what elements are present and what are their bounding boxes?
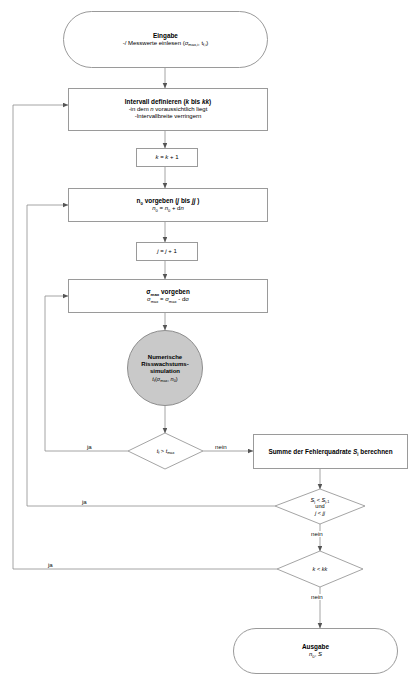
n0-line-2: n0 = n0 + dn: [152, 205, 184, 212]
node-k-increment: k = k + 1: [136, 148, 198, 167]
eingabe-heading: Eingabe: [153, 32, 178, 40]
node-decision-k: k < kk: [277, 551, 363, 587]
intervall-line-3: -Intervallbreite verringern: [135, 113, 202, 120]
simulation-line-2: Risswachstums-: [141, 361, 188, 368]
edge-label-nein-tf: nein: [214, 444, 228, 450]
node-decision-tf: tf > tmax: [128, 433, 203, 469]
edge-label-ja-sj: ja: [81, 499, 88, 505]
decision-sj-line-3: j < jj: [311, 510, 330, 516]
node-summe-fehlerquadrate: Summe der Fehlerquadrate Sj berechnen: [253, 434, 408, 469]
ausgabe-values: n0, S: [309, 651, 322, 658]
wire-ja-tf-loop: [45, 296, 128, 451]
eingabe-line-1: -/ Messwerte einlesen (σmax,i, tf,i): [123, 40, 209, 47]
node-numerische-simulation: Numerische Risswachstums- simulation tf(…: [127, 330, 203, 406]
k-increment-text: k = k + 1: [155, 154, 178, 161]
simulation-line-1: Numerische: [148, 354, 182, 361]
summe-text: Summe der Fehlerquadrate Sj berechnen: [268, 448, 392, 456]
decision-tf-label: tf > tmax: [157, 448, 175, 454]
node-j-increment: j = j + 1: [136, 242, 198, 261]
edge-label-nein-sj: nein: [310, 531, 324, 537]
sigma-heading: σmax vorgeben: [146, 288, 190, 296]
decision-k-label: k < kk: [313, 566, 328, 572]
n0-heading: n0 vorgeben (j bis jj ): [137, 197, 200, 205]
node-sigma-vorgeben: σmax vorgeben σmax = σmax - dσ: [68, 279, 268, 313]
node-n0-vorgeben: n0 vorgeben (j bis jj ) n0 = n0 + dn: [68, 188, 268, 222]
node-decision-sj: Sj < Sj-1 und j < jj: [275, 489, 365, 524]
j-increment-text: j = j + 1: [157, 248, 177, 255]
node-intervall-definieren: Intervall definieren (k bis kk) -in dem …: [68, 88, 268, 131]
simulation-line-3: simulation: [150, 368, 180, 375]
simulation-line-4: tf(σmax, n0): [152, 376, 177, 383]
flowchart-canvas: Eingabe -/ Messwerte einlesen (σmax,i, t…: [0, 0, 413, 682]
sigma-line-2: σmax = σmax - dσ: [147, 296, 189, 303]
intervall-line-2: -in dem n voraussichtlich liegt: [129, 106, 208, 113]
intervall-heading: Intervall definieren (k bis kk): [125, 98, 211, 106]
edge-label-ja-k: ja: [47, 562, 54, 568]
node-eingabe: Eingabe -/ Messwerte einlesen (σmax,i, t…: [63, 11, 268, 68]
ausgabe-heading: Ausgabe: [302, 643, 329, 651]
edge-label-nein-k: nein: [310, 594, 324, 600]
edge-label-ja-tf: ja: [86, 444, 93, 450]
node-ausgabe: Ausgabe n0, S: [233, 628, 398, 674]
decision-sj-label: Sj < Sj-1 und j < jj: [311, 497, 330, 516]
